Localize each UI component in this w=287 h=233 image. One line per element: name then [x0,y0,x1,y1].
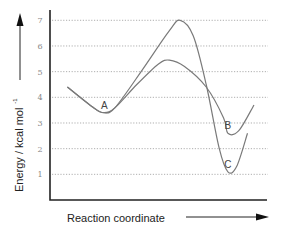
y-tick-label: 6 [37,42,42,51]
energy-profile-chart: 1234567 A B C Energy / kcal mol-1 Reacti… [0,0,287,233]
y-tick-label: 4 [37,93,42,102]
point-label-a: A [101,100,108,111]
reaction-path-c-curve [67,20,247,173]
up-arrow-icon [17,13,24,80]
y-tick-label: 7 [37,16,42,25]
y-tick-label: 2 [37,145,42,154]
point-label-b: B [225,120,232,131]
y-axis-label: Energy / kcal mol-1 [12,98,25,192]
point-label-c: C [224,159,231,170]
x-axis-label: Reaction coordinate [67,212,165,224]
axes-lines [50,10,267,200]
y-tick-label: 3 [37,119,42,128]
right-arrow-icon [186,214,269,221]
y-tick-label: 1 [37,170,42,179]
y-tick-labels: 1234567 [37,16,42,179]
y-tick-label: 5 [37,68,42,77]
